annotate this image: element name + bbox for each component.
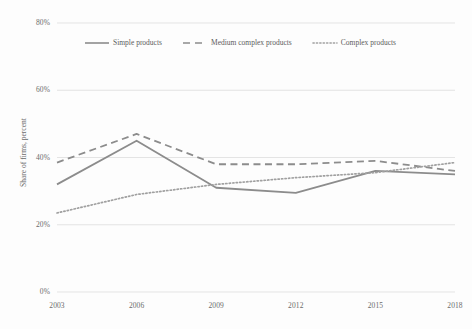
chart-legend: Simple products Medium complex products … — [84, 38, 396, 47]
y-tick-label: 0% — [20, 287, 50, 296]
y-tick-label: 20% — [20, 220, 50, 229]
y-tick-label: 40% — [20, 153, 50, 162]
legend-swatch-dotted-icon — [312, 39, 338, 47]
legend-label-complex-products: Complex products — [341, 38, 396, 47]
series-line-complex-products — [57, 163, 455, 213]
x-tick-label: 2009 — [196, 301, 236, 310]
x-tick-label: 2006 — [117, 301, 157, 310]
y-tick-label: 80% — [20, 18, 50, 27]
legend-item-medium-complex-products: Medium complex products — [182, 38, 292, 47]
y-tick-label: 60% — [20, 85, 50, 94]
legend-label-medium-complex-products: Medium complex products — [211, 38, 292, 47]
legend-swatch-solid-icon — [84, 39, 110, 47]
plot-area — [0, 0, 472, 329]
gridlines — [57, 23, 455, 292]
x-tick-label: 2012 — [276, 301, 316, 310]
x-tick-label: 2003 — [37, 301, 77, 310]
legend-label-simple-products: Simple products — [113, 38, 162, 47]
series-line-simple-products — [57, 141, 455, 193]
legend-item-complex-products: Complex products — [312, 38, 396, 47]
legend-swatch-dashed-icon — [182, 39, 208, 47]
series-lines — [57, 134, 455, 213]
line-chart: Share of firms, percent 80%60%40%20%0% 2… — [0, 0, 472, 329]
x-tick-label: 2015 — [355, 301, 395, 310]
legend-item-simple-products: Simple products — [84, 38, 162, 47]
x-tick-label: 2018 — [435, 301, 472, 310]
